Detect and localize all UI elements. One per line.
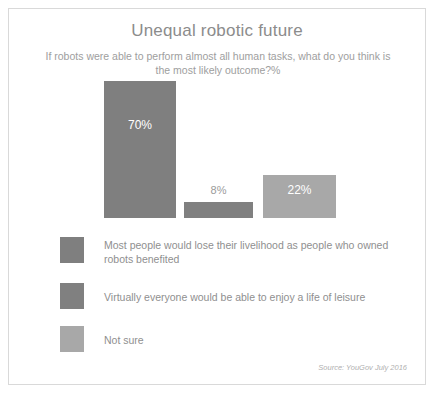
source-note: Source: YouGov July 2016 bbox=[318, 363, 407, 372]
bar-group-2: 8% bbox=[184, 186, 253, 218]
bar-rect-2[interactable] bbox=[184, 202, 253, 218]
bar-group-1: 70% bbox=[104, 81, 176, 218]
legend-label-1: Most people would lose their livelihood … bbox=[104, 237, 410, 266]
chart-card: Unequal robotic future If robots were ab… bbox=[8, 8, 426, 385]
bar-group-3: 22% bbox=[263, 175, 336, 218]
bar-value-label-1: 70% bbox=[104, 118, 176, 132]
legend-swatch-2 bbox=[60, 283, 84, 309]
bar-rect-1[interactable] bbox=[104, 81, 176, 218]
bar-value-label-2: 8% bbox=[184, 184, 253, 196]
chart-legend: Most people would lose their livelihood … bbox=[60, 237, 410, 369]
legend-item-3[interactable]: Not sure bbox=[60, 326, 410, 352]
legend-swatch-3 bbox=[60, 326, 84, 352]
legend-swatch-1 bbox=[60, 237, 84, 263]
legend-label-2: Virtually everyone would be able to enjo… bbox=[104, 283, 365, 304]
legend-label-3: Not sure bbox=[104, 326, 144, 347]
legend-item-1[interactable]: Most people would lose their livelihood … bbox=[60, 237, 410, 266]
bar-value-label-3: 22% bbox=[263, 183, 336, 197]
legend-item-2[interactable]: Virtually everyone would be able to enjo… bbox=[60, 283, 410, 309]
